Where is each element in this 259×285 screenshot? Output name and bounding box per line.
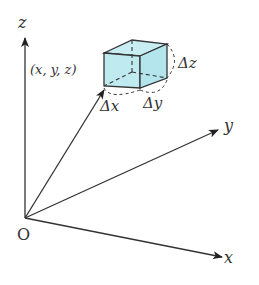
- dz-arc: [167, 44, 175, 78]
- dz-label: Δz: [177, 54, 197, 72]
- point-label: (x, y, z): [30, 62, 76, 77]
- position-vector: [25, 90, 104, 218]
- coordinate-diagram: z y x O (x, y, z) Δx Δy Δz: [0, 0, 259, 285]
- x-axis: [25, 218, 222, 257]
- origin-label: O: [17, 225, 30, 244]
- dx-arc: [104, 88, 140, 95]
- y-axis-label: y: [223, 116, 234, 135]
- x-axis-label: x: [224, 248, 233, 267]
- dx-label: Δx: [99, 97, 120, 115]
- y-axis: [25, 130, 218, 218]
- dy-label: Δy: [142, 94, 163, 112]
- volume-element-box: [104, 40, 167, 88]
- z-axis-label: z: [17, 13, 27, 32]
